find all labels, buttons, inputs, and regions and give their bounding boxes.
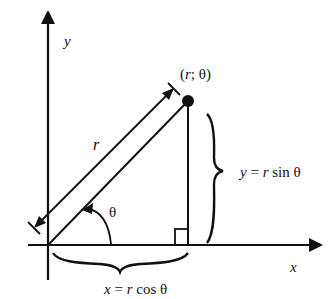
point-marker [182, 95, 194, 107]
right-angle-marker [175, 229, 188, 245]
point-label: (r; θ) [180, 66, 211, 83]
polar-coordinates-diagram: y x (r; θ) r θ y = r sin θ x = r cos θ [0, 0, 334, 299]
y-axis-arrowhead [41, 10, 55, 24]
x-axis-arrowhead [309, 238, 323, 252]
radius-dimension-arrow [36, 90, 172, 226]
horizontal-brace [53, 253, 188, 272]
angle-arc [86, 208, 111, 244]
radius-label: r [93, 136, 100, 153]
angle-label: θ [109, 204, 116, 220]
vertical-equation: y = r sin θ [238, 164, 301, 180]
x-axis-label: x [289, 259, 297, 275]
y-axis-label: y [62, 33, 71, 49]
horizontal-equation: x = r cos θ [103, 281, 167, 297]
vertical-brace [207, 114, 223, 243]
radius-line [49, 101, 188, 244]
